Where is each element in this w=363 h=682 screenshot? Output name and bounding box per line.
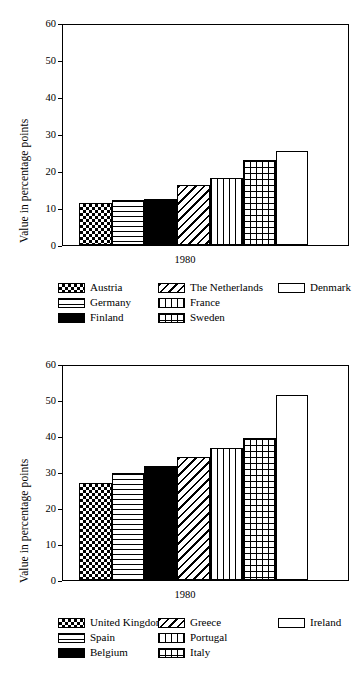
plot-area-bottom [62, 365, 349, 581]
y-tick-mark [58, 98, 62, 99]
legend-swatch-hlines [58, 298, 85, 308]
y-tick-label: 0 [30, 241, 56, 252]
legend-label: The Netherlands [190, 280, 263, 295]
legend-item-greece[interactable]: Greece [158, 615, 278, 630]
legend-item-spain[interactable]: Spain [58, 630, 158, 645]
bar-spain [112, 473, 145, 580]
legend-label: United Kingdom [90, 615, 164, 630]
y-tick-mark [58, 61, 62, 62]
legend-swatch-blank [278, 618, 305, 628]
legend-swatch-solid [58, 313, 85, 323]
legend-swatch-blank [278, 283, 305, 293]
bars-group-bottom [63, 366, 348, 580]
legend-label: Ireland [310, 615, 341, 630]
y-tick-mark [58, 24, 62, 25]
y-tick-mark [58, 172, 62, 173]
bar-germany [112, 200, 145, 246]
y-tick-label: 60 [30, 360, 56, 371]
legend-label: Germany [90, 295, 131, 310]
bar-the-netherlands [177, 185, 210, 245]
chart-top: Value in percentage points 0102030405060… [0, 0, 363, 340]
legend-item-ireland[interactable]: Ireland [278, 615, 363, 630]
legend-label: Finland [90, 310, 124, 325]
y-tick-label: 60 [30, 19, 56, 30]
legend-label: Greece [190, 615, 221, 630]
bar-united-kingdom [79, 483, 112, 580]
bar-sweden [243, 160, 276, 245]
legend-item-denmark[interactable]: Denmark [278, 280, 363, 295]
y-tick-mark [58, 401, 62, 402]
legend-item-united-kingdom[interactable]: United Kingdom [58, 615, 158, 630]
legend-swatch-solid [58, 648, 85, 658]
y-axis-title-top: Value in percentage points [18, 119, 30, 243]
legend-item-italy[interactable]: Italy [158, 645, 278, 660]
plot-area-top [62, 24, 349, 246]
bars-group-top [63, 25, 348, 245]
y-tick-mark [58, 473, 62, 474]
legend-item-austria[interactable]: Austria [58, 280, 158, 295]
y-tick-label: 10 [30, 540, 56, 551]
legend-item-finland[interactable]: Finland [58, 310, 158, 325]
y-tick-label: 50 [30, 396, 56, 407]
legend-label: France [190, 295, 220, 310]
legend-item-the-netherlands[interactable]: The Netherlands [158, 280, 278, 295]
legend-swatch-grid [158, 648, 185, 658]
legend-label: Austria [90, 280, 122, 295]
legend-swatch-diag [158, 283, 185, 293]
y-axis-title-bottom: Value in percentage points [18, 459, 30, 583]
legend-item-sweden[interactable]: Sweden [158, 310, 278, 325]
y-tick-mark [58, 365, 62, 366]
legend-swatch-hlines [58, 633, 85, 643]
legend-item-portugal[interactable]: Portugal [158, 630, 278, 645]
bar-italy [243, 438, 276, 580]
legend-swatch-checker [58, 283, 85, 293]
legend-item-france[interactable]: France [158, 295, 278, 310]
y-tick-label: 20 [30, 504, 56, 515]
y-tick-label: 30 [30, 130, 56, 141]
legend-label: Sweden [190, 310, 225, 325]
bar-greece [177, 457, 210, 580]
y-tick-mark [58, 581, 62, 582]
x-tick-label-bottom: 1980 [155, 590, 215, 601]
bar-denmark [276, 151, 309, 245]
y-tick-mark [58, 509, 62, 510]
y-tick-label: 40 [30, 432, 56, 443]
y-tick-mark [58, 437, 62, 438]
legend-bottom: United KingdomSpainBelgiumGreecePortugal… [58, 615, 363, 660]
legend-label: Spain [90, 630, 115, 645]
legend-top: AustriaGermanyFinlandThe NetherlandsFran… [58, 280, 363, 325]
y-tick-mark [58, 246, 62, 247]
legend-swatch-checker [58, 618, 85, 628]
y-tick-label: 20 [30, 167, 56, 178]
y-tick-label: 0 [30, 576, 56, 587]
bar-portugal [210, 448, 243, 580]
y-tick-label: 30 [30, 468, 56, 479]
bar-france [210, 178, 243, 245]
legend-swatch-vlines [158, 633, 185, 643]
y-tick-label: 10 [30, 204, 56, 215]
legend-swatch-vlines [158, 298, 185, 308]
chart-bottom: Value in percentage points 0102030405060… [0, 340, 363, 682]
y-tick-mark [58, 545, 62, 546]
bar-austria [79, 203, 112, 245]
y-tick-mark [58, 135, 62, 136]
legend-swatch-grid [158, 313, 185, 323]
legend-label: Portugal [190, 630, 227, 645]
legend-label: Belgium [90, 645, 128, 660]
y-tick-label: 50 [30, 56, 56, 67]
bar-ireland [276, 395, 309, 580]
y-tick-label: 40 [30, 93, 56, 104]
bar-finland [144, 199, 177, 245]
y-tick-mark [58, 209, 62, 210]
legend-label: Denmark [310, 280, 351, 295]
legend-label: Italy [190, 645, 210, 660]
bar-belgium [144, 466, 177, 580]
legend-swatch-diag [158, 618, 185, 628]
legend-item-germany[interactable]: Germany [58, 295, 158, 310]
x-tick-label-top: 1980 [155, 255, 215, 266]
figure-page: Value in percentage points 0102030405060… [0, 0, 363, 682]
legend-item-belgium[interactable]: Belgium [58, 645, 158, 660]
